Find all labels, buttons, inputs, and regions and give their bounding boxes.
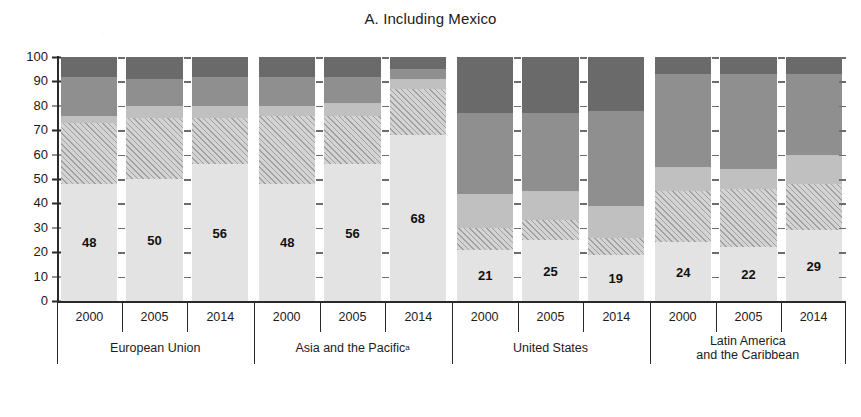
bar-value-label: 19: [588, 271, 644, 286]
bar[interactable]: 24: [655, 57, 711, 301]
y-axis-tick-label: 0: [0, 293, 48, 308]
bar-segment-segment5: [61, 57, 117, 77]
bar-segment-segment4: [655, 74, 711, 167]
bar[interactable]: 56: [192, 57, 248, 301]
bar-segment-segment2: [457, 228, 513, 250]
y-axis-tick-label: 90: [0, 73, 48, 88]
bar-value-label: 48: [61, 235, 117, 250]
bar-segment-segment2: [390, 89, 446, 135]
year-divider: [385, 302, 386, 332]
inner-axis-tick-column: [118, 57, 125, 301]
bar-value-label: 21: [457, 268, 513, 283]
bar-segment-segment3: [390, 79, 446, 89]
plot-area: 485056485668212519242229: [57, 57, 846, 301]
inner-axis-tick-column: [712, 57, 719, 301]
bar-value-label: 25: [522, 264, 578, 279]
year-divider: [122, 302, 123, 332]
x-axis-year-label: 2005: [320, 302, 385, 332]
bar-segment-segment4: [61, 77, 117, 116]
bar-segment-segment2: [192, 118, 248, 164]
x-axis-group-label: Asia and the Pacifica: [254, 332, 452, 364]
bar[interactable]: 50: [126, 57, 182, 301]
bar-segment-segment2: [720, 189, 776, 248]
bar-segment-segment4: [192, 77, 248, 106]
bar[interactable]: 68: [390, 57, 446, 301]
x-axis-group-label: United States: [452, 332, 650, 364]
bar-segment-segment4: [457, 113, 513, 194]
bar-segment-segment3: [786, 155, 842, 184]
y-axis-tick-label: 60: [0, 147, 48, 162]
x-axis-year-label: 2014: [385, 302, 451, 332]
y-axis-tick-label: 100: [0, 49, 48, 64]
bar-segment-segment2: [655, 191, 711, 242]
bar-segment-segment2: [324, 116, 380, 165]
bar-value-label: 22: [720, 267, 776, 282]
x-axis-year-label: 2014: [781, 302, 846, 332]
bar-segment-segment3: [720, 169, 776, 189]
y-axis-tick-label: 30: [0, 220, 48, 235]
bar-segment-segment5: [126, 57, 182, 79]
x-axis-year-label: 2014: [583, 302, 649, 332]
bar-segment-segment5: [786, 57, 842, 74]
year-divider: [716, 302, 717, 332]
bar-segment-segment4: [588, 111, 644, 206]
inner-axis-tick-column: [184, 57, 191, 301]
year-divider: [187, 302, 188, 332]
bar-segment-segment2: [786, 184, 842, 230]
x-axis-year-label: 2005: [716, 302, 781, 332]
x-axis-group-label: Latin Americaand the Caribbean: [650, 332, 847, 364]
x-axis-year-label: 2005: [518, 302, 583, 332]
x-axis-group-label: European Union: [57, 332, 254, 364]
inner-axis-tick-column: [580, 57, 587, 301]
x-axis-year-label: 2000: [254, 302, 320, 332]
bar-segment-segment5: [588, 57, 644, 111]
bar[interactable]: 25: [522, 57, 578, 301]
y-axis-tick-label: 50: [0, 171, 48, 186]
bar-value-label: 24: [655, 265, 711, 280]
footnote-marker: a: [405, 341, 409, 355]
bar-segment-segment5: [324, 57, 380, 77]
x-axis-label-table: 2000200520142000200520142000200520142000…: [57, 302, 846, 364]
bar-value-label: 48: [259, 235, 315, 250]
bar-segment-segment4: [786, 74, 842, 155]
bar[interactable]: 22: [720, 57, 776, 301]
bar-segment-segment5: [192, 57, 248, 77]
bar-value-label: 68: [390, 211, 446, 226]
y-axis-tick-label: 70: [0, 122, 48, 137]
bar-segment-segment5: [259, 57, 315, 77]
x-axis-year-label: 2000: [452, 302, 518, 332]
y-axis-tick-label: 20: [0, 244, 48, 259]
bar-segment-segment5: [390, 57, 446, 69]
bar[interactable]: 29: [786, 57, 842, 301]
year-divider: [583, 302, 584, 332]
bar-segment-segment4: [324, 77, 380, 104]
y-axis-tick-label: 80: [0, 98, 48, 113]
bar[interactable]: 19: [588, 57, 644, 301]
bar-segment-segment3: [61, 116, 117, 123]
bar[interactable]: 48: [259, 57, 315, 301]
bar-segment-segment3: [655, 167, 711, 191]
bar[interactable]: 56: [324, 57, 380, 301]
inner-axis-tick-column: [778, 57, 785, 301]
bar-segment-segment4: [720, 74, 776, 169]
bar-segment-segment3: [457, 194, 513, 228]
bar-segment-segment2: [259, 116, 315, 184]
bar-segment-segment5: [655, 57, 711, 74]
y-axis-tick-label: 40: [0, 195, 48, 210]
bar-segment-segment4: [126, 79, 182, 106]
bar-value-label: 29: [786, 259, 842, 274]
inner-axis-tick-column: [316, 57, 323, 301]
bar-value-label: 56: [324, 226, 380, 241]
bar[interactable]: 48: [61, 57, 117, 301]
x-axis-year-label: 2005: [122, 302, 187, 332]
year-divider: [781, 302, 782, 332]
bar-segment-segment2: [588, 238, 644, 255]
bar-segment-segment2: [522, 220, 578, 240]
bar-segment-segment5: [522, 57, 578, 113]
page-title: A. Including Mexico: [0, 10, 861, 27]
bar[interactable]: 21: [457, 57, 513, 301]
bar-segment-segment3: [324, 103, 380, 115]
bar-value-label: 56: [192, 226, 248, 241]
year-divider: [518, 302, 519, 332]
bar-segment-segment3: [192, 106, 248, 118]
